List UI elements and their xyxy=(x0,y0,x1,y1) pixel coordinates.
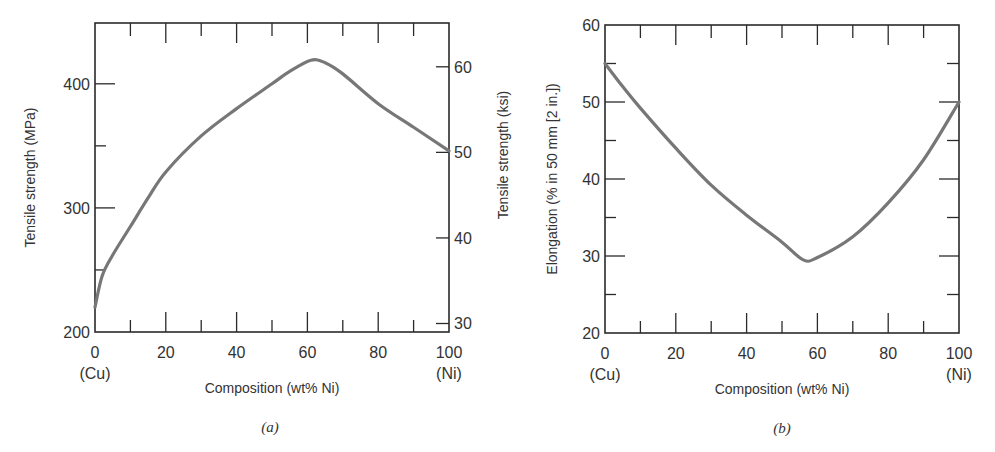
x-tick-label: 20 xyxy=(157,344,175,361)
x-tick-sublabel: (Ni) xyxy=(436,365,462,382)
x-axis-title: Composition (wt% Ni) xyxy=(715,381,850,397)
y-axis-title: Elongation (% in 50 mm [2 in.]) xyxy=(544,83,560,274)
x-tick-sublabel: (Cu) xyxy=(79,365,110,382)
plot-frame xyxy=(605,25,959,333)
x-tick-label: 0 xyxy=(601,345,610,362)
x-axis-title: Composition (wt% Ni) xyxy=(205,380,340,396)
x-tick-label: 60 xyxy=(299,344,317,361)
x-tick-label: 100 xyxy=(436,344,463,361)
series-line-tensile-strength xyxy=(95,60,449,307)
figure-caption: (b) xyxy=(773,420,791,437)
x-tick-sublabel: (Cu) xyxy=(589,366,620,383)
chart-b-elongation: 0(Cu)20406080100(Ni)2030405060Elongation… xyxy=(544,17,972,437)
y2-tick-label: 60 xyxy=(454,59,472,76)
y2-tick-label: 50 xyxy=(454,144,472,161)
x-tick-sublabel: (Ni) xyxy=(946,366,972,383)
y-axis-title: Tensile strength (MPa) xyxy=(22,107,38,247)
y-tick-label: 50 xyxy=(582,94,600,111)
chart-a-tensile-strength: 0(Cu)20406080100(Ni)20030040030405060Ten… xyxy=(22,23,511,436)
y-tick-label: 300 xyxy=(63,200,90,217)
figure-caption: (a) xyxy=(261,419,279,436)
y2-tick-label: 30 xyxy=(454,315,472,332)
plot-frame xyxy=(95,23,449,332)
x-tick-label: 40 xyxy=(228,344,246,361)
y-tick-label: 40 xyxy=(582,171,600,188)
y-tick-label: 400 xyxy=(63,76,90,93)
y2-tick-label: 40 xyxy=(454,230,472,247)
series-line-elongation xyxy=(605,64,959,262)
x-tick-label: 80 xyxy=(369,344,387,361)
y-tick-label: 200 xyxy=(63,324,90,341)
y-tick-label: 60 xyxy=(582,17,600,34)
x-tick-label: 100 xyxy=(946,345,973,362)
x-tick-label: 20 xyxy=(667,345,685,362)
y-tick-label: 20 xyxy=(582,325,600,342)
x-tick-label: 60 xyxy=(809,345,827,362)
y-tick-label: 30 xyxy=(582,248,600,265)
x-tick-label: 40 xyxy=(738,345,756,362)
x-tick-label: 0 xyxy=(91,344,100,361)
figure: 0(Cu)20406080100(Ni)20030040030405060Ten… xyxy=(0,0,995,452)
x-tick-label: 80 xyxy=(879,345,897,362)
y2-axis-title: Tensile strength (ksi) xyxy=(495,91,511,219)
